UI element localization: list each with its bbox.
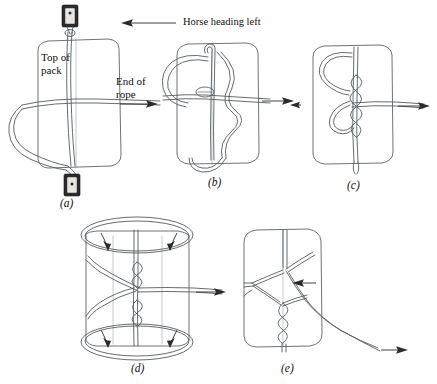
panel-caption-c: (c)	[347, 179, 360, 193]
cinch-ring-top-icon	[62, 5, 78, 36]
figure-canvas: Horse heading left Top of pack End of ro…	[0, 0, 437, 384]
panel-caption-e: (e)	[281, 362, 294, 376]
panel-caption-a: (a)	[60, 197, 73, 211]
top-of-pack-label: Top of pack	[41, 51, 70, 77]
end-of-rope-label: End of rope	[116, 75, 146, 101]
horse-heading-annotation: Horse heading left	[183, 16, 261, 28]
panel-caption-b: (b)	[208, 176, 221, 190]
panel-caption-d: (d)	[131, 362, 144, 376]
horse-direction-arrow	[121, 19, 176, 26]
cinch-ring-bottom-icon	[64, 174, 80, 196]
end-of-rope-arrow	[120, 100, 158, 107]
panel-c-artwork	[290, 45, 430, 174]
panel-c-left-arrow	[290, 102, 301, 108]
panel-e-artwork	[244, 229, 408, 354]
panel-d-artwork	[81, 217, 226, 360]
panel-e-tail-arrow	[381, 346, 408, 353]
panel-b-artwork	[162, 43, 294, 172]
